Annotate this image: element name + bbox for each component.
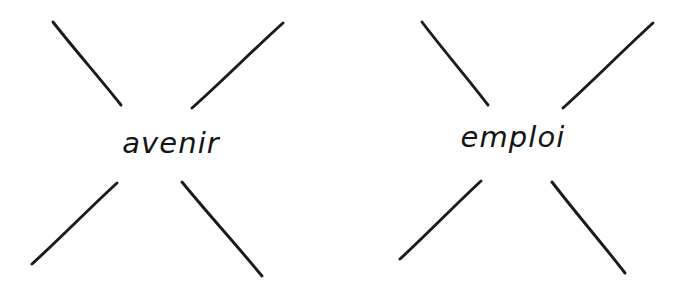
center-word-avenir: avenir	[0, 126, 342, 160]
diagram-emploi: emploi	[342, 0, 684, 297]
ray-lower-right	[182, 182, 262, 276]
ray-upper-right	[192, 23, 283, 108]
diagram-avenir: avenir	[0, 0, 342, 297]
ray-lower-right	[552, 182, 625, 273]
ray-lower-left	[32, 183, 117, 264]
ray-upper-left	[422, 22, 488, 105]
ray-lower-left	[400, 181, 481, 259]
center-word-emploi: emploi	[342, 120, 684, 154]
ray-upper-left	[53, 22, 121, 105]
sketch-canvas: avenir emploi	[0, 0, 684, 297]
ray-upper-right	[563, 23, 653, 108]
